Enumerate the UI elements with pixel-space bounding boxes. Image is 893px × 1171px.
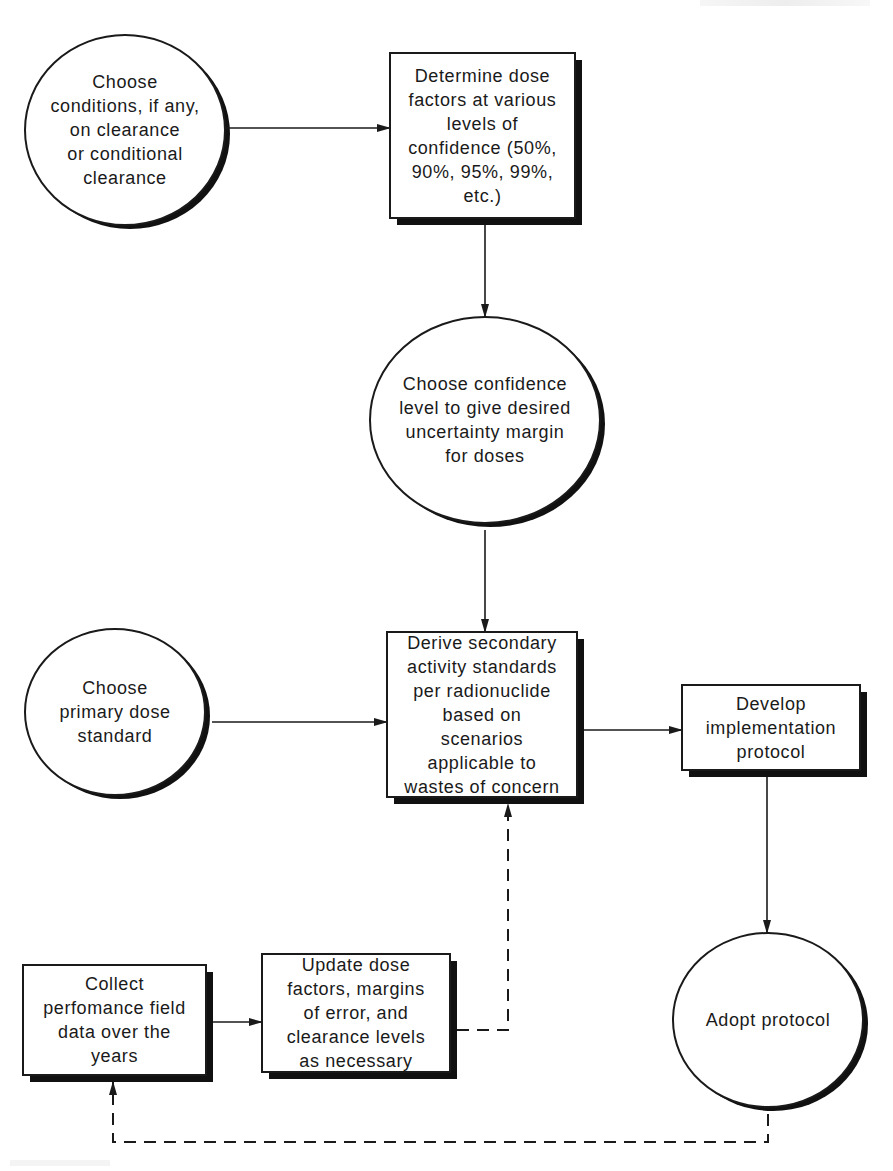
- node-label-update-dose-factors: Update dose factors, margins of error, a…: [262, 954, 450, 1072]
- node-label-choose-conditions: Choose conditions, if any, on clearance …: [25, 35, 225, 225]
- node-label-develop-implementation-protocol: Develop implementation protocol: [682, 685, 860, 770]
- flowchart-canvas: Choose conditions, if any, on clearance …: [0, 0, 893, 1171]
- node-label-collect-field-data: Collect perfomance field data over the y…: [23, 965, 206, 1075]
- node-label-adopt-protocol: Adopt protocol: [673, 933, 863, 1107]
- node-label-derive-secondary-standards: Derive secondary activity standards per …: [387, 632, 577, 797]
- node-label-determine-dose-factors: Determine dose factors at various levels…: [390, 53, 575, 218]
- page-footer-smudge: [10, 1160, 110, 1166]
- edge-adopt-protocol-to-collect-field-data: [113, 1082, 768, 1142]
- node-label-choose-primary-dose-standard: Choose primary dose standard: [25, 629, 205, 795]
- edge-update-dose-factors-to-derive-secondary-standards: [457, 804, 508, 1030]
- node-label-choose-confidence-level: Choose confidence level to give desired …: [370, 317, 600, 523]
